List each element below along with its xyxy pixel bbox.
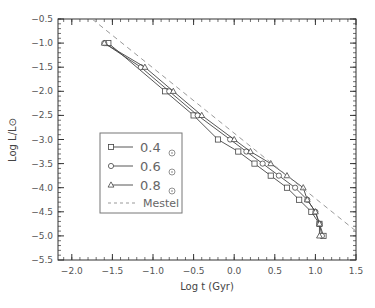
square-marker	[108, 144, 113, 149]
x-tick-label: 1.5	[349, 266, 363, 276]
legend-label: 0.8	[140, 178, 161, 193]
square-marker	[215, 137, 220, 142]
square-marker	[252, 161, 257, 166]
x-tick-labels: −2.0−1.5−1.0−0.50.00.51.01.5	[61, 266, 363, 276]
x-tick-label: −1.5	[101, 266, 123, 276]
y-tick-label: −4.0	[31, 183, 53, 193]
circle-marker	[108, 163, 113, 168]
y-tick-label: −0.5	[31, 14, 53, 24]
sun-symbol-dot	[171, 190, 173, 192]
x-tick-label: −1.0	[142, 266, 164, 276]
square-marker	[236, 149, 241, 154]
sun-symbol-dot	[171, 171, 173, 173]
y-tick-label: −1.5	[31, 62, 53, 72]
chart: −2.0−1.5−1.0−0.50.00.51.01.5 −0.5−1.0−1.…	[0, 0, 375, 308]
y-tick-label: −2.5	[31, 110, 53, 120]
circle-marker	[276, 173, 281, 178]
square-marker	[284, 185, 289, 190]
sun-symbol-dot	[171, 152, 173, 154]
x-tick-label: 0.5	[268, 266, 282, 276]
x-axis-title: Log t (Gyr)	[180, 281, 234, 292]
square-marker	[297, 197, 302, 202]
x-tick-label: 1.0	[308, 266, 323, 276]
y-tick-label: −5.5	[31, 255, 53, 265]
y-tick-label: −1.0	[31, 38, 53, 48]
y-tick-labels: −0.5−1.0−1.5−2.0−2.5−3.0−3.5−4.0−4.5−5.0…	[31, 14, 53, 265]
x-tick-label: −0.5	[183, 266, 205, 276]
y-tick-label: −3.5	[31, 159, 53, 169]
x-tick-label: −2.0	[61, 266, 83, 276]
y-tick-label: −5.0	[31, 231, 53, 241]
circle-marker	[293, 185, 298, 190]
legend-label: 0.6	[140, 159, 161, 174]
legend-label: 0.4	[140, 140, 161, 155]
y-axis-title: Log L/L⊙	[7, 118, 18, 162]
legend: 0.40.60.8Mestel	[100, 133, 182, 213]
legend-label: Mestel	[143, 197, 179, 210]
y-tick-label: −4.5	[31, 207, 53, 217]
y-tick-label: −2.0	[31, 86, 53, 96]
x-tick-label: 0.0	[227, 266, 242, 276]
y-tick-label: −3.0	[31, 135, 53, 145]
square-marker	[268, 173, 273, 178]
circle-marker	[260, 161, 265, 166]
